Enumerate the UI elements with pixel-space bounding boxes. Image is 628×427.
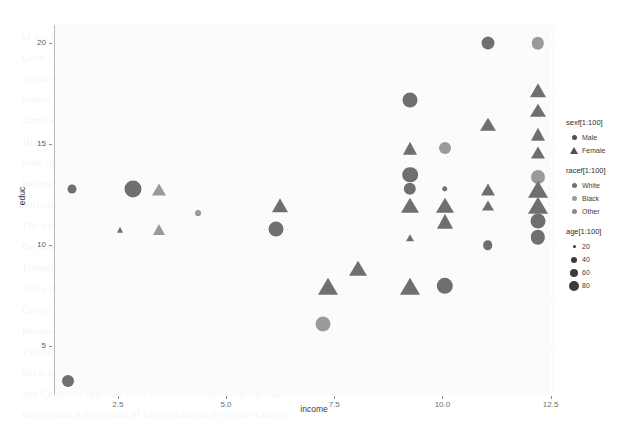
gridline-vertical [226,25,227,395]
data-point [349,261,367,276]
legend: sexf[1:100]MaleFemaleracef[1:100]WhiteBl… [566,118,628,301]
legend-title: sexf[1:100] [566,118,628,127]
data-point [483,241,493,251]
data-point [68,184,77,193]
x-tick-mark [551,396,552,399]
data-point [482,200,494,210]
legend-key-circle-icon [566,245,582,248]
legend-key-circle-icon [566,281,582,291]
gridline-horizontal [55,245,555,246]
gridline-vertical-minor [388,25,389,395]
data-point [436,198,454,213]
data-point [62,375,74,387]
gridline-vertical [334,25,335,395]
data-point [530,104,546,117]
legend-item[interactable]: Female [566,144,628,157]
legend-block: racef[1:100]WhiteBlackOther [566,166,628,218]
data-point [406,234,414,241]
legend-title: age[1:100] [566,227,628,236]
legend-label: Male [582,134,597,141]
legend-item[interactable]: 80 [566,279,628,292]
gridline-vertical-minor [497,25,498,395]
legend-label: Female [582,147,605,154]
legend-item[interactable]: Black [566,192,628,205]
y-tick-label: 20 [6,38,46,47]
legend-key-circle-icon [566,183,582,188]
gridline-horizontal [55,346,555,347]
legend-title: racef[1:100] [566,166,628,175]
legend-item[interactable]: 20 [566,240,628,253]
gridline-horizontal-minor [55,94,555,95]
y-tick-mark [49,43,52,44]
y-tick-label: 15 [6,139,46,148]
legend-item[interactable]: Other [566,205,628,218]
data-point [528,197,548,214]
gridline-vertical [118,25,119,395]
legend-key-triangle-icon [566,147,582,154]
legend-label: Black [582,195,599,202]
y-tick-label: 10 [6,240,46,249]
data-point [402,167,418,183]
data-point [195,210,201,216]
data-point [528,181,548,198]
legend-item[interactable]: Male [566,131,628,144]
gridline-vertical-minor [172,25,173,395]
data-point [117,226,123,232]
data-point [531,147,545,159]
legend-label: 40 [582,256,590,263]
y-tick-mark [49,346,52,347]
data-point [439,142,451,154]
x-tick-mark [334,396,335,399]
data-point [403,142,417,155]
legend-item[interactable]: 40 [566,253,628,266]
gridline-horizontal [55,43,555,44]
data-point [531,128,545,141]
legend-label: Other [582,208,600,215]
data-point [481,37,494,50]
legend-key-circle-icon [566,209,582,214]
data-point [480,118,496,131]
legend-item[interactable]: 60 [566,266,628,279]
data-point [402,92,417,107]
data-point [272,198,288,212]
legend-label: White [582,182,600,189]
data-point [316,317,331,332]
data-point [530,83,546,97]
data-point [442,186,448,192]
data-point [318,278,338,295]
data-point [124,180,141,197]
y-axis-line [54,25,55,395]
legend-label: 20 [582,243,590,250]
data-point [401,198,419,213]
gridline-vertical [551,25,552,395]
legend-item[interactable]: White [566,179,628,192]
x-tick-mark [118,396,119,399]
legend-label: 60 [582,269,590,276]
data-point [530,214,545,229]
legend-key-circle-icon [566,196,582,201]
y-tick-mark [49,144,52,145]
legend-key-circle-icon [566,135,582,140]
plot-panel [55,25,555,395]
legend-block: age[1:100]20406080 [566,227,628,292]
y-tick-mark [49,245,52,246]
figure-root: of the relationship between the variable… [0,0,628,427]
legend-key-circle-icon [566,269,582,277]
x-axis-title: income [0,404,628,414]
data-point [481,183,495,195]
y-tick-label: 5 [6,341,46,350]
legend-key-circle-icon [566,257,582,263]
legend-label: 80 [582,282,590,289]
data-point [152,183,166,195]
y-axis-title: educ [17,187,27,205]
x-tick-mark [226,396,227,399]
legend-block: sexf[1:100]MaleFemale [566,118,628,157]
data-point [268,222,283,237]
x-tick-mark [442,396,443,399]
gridline-horizontal-minor [55,296,555,297]
data-point [437,214,453,229]
data-point [400,278,420,295]
gridline-vertical-minor [64,25,65,395]
gridline-horizontal [55,144,555,145]
data-point [153,224,165,235]
